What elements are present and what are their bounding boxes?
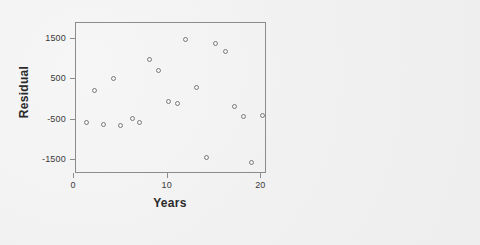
- y-tick-mark: [70, 38, 75, 39]
- data-point: [84, 120, 89, 125]
- data-point: [183, 37, 188, 42]
- x-tick-label: 0: [71, 180, 76, 190]
- data-point: [156, 68, 161, 73]
- y-tick-mark: [70, 78, 75, 79]
- screenshot-root: 1500500-500-1500 01020 Residual Years: [0, 0, 480, 245]
- x-tick-mark: [167, 173, 168, 178]
- x-tick-label: 20: [255, 180, 265, 190]
- data-point: [130, 116, 135, 121]
- x-tick-mark: [260, 173, 261, 178]
- data-point: [137, 120, 142, 125]
- data-point: [213, 41, 218, 46]
- data-point: [249, 160, 254, 165]
- y-tick-mark: [70, 159, 75, 160]
- y-tick-label: 1500: [45, 33, 66, 43]
- y-axis-tick-labels: 1500500-500-1500: [0, 0, 66, 245]
- data-point: [166, 99, 171, 104]
- data-point: [175, 101, 180, 106]
- data-point: [232, 104, 237, 109]
- data-point: [92, 88, 97, 93]
- y-tick-label: -1500: [42, 154, 66, 164]
- plot-area-frame: [75, 22, 266, 173]
- data-point: [260, 113, 265, 118]
- data-point: [241, 114, 246, 119]
- data-point: [194, 85, 199, 90]
- y-axis-title: Residual: [17, 66, 31, 118]
- data-point: [111, 76, 116, 81]
- x-axis-title: Years: [153, 196, 187, 210]
- data-point: [204, 155, 209, 160]
- data-point: [118, 123, 123, 128]
- data-point: [223, 49, 228, 54]
- y-tick-mark: [70, 119, 75, 120]
- y-tick-label: 500: [50, 73, 66, 83]
- residual-scatter-figure: 1500500-500-1500 01020 Residual Years: [0, 0, 480, 245]
- x-tick-label: 10: [162, 180, 172, 190]
- y-tick-label: -500: [47, 114, 66, 124]
- data-point: [147, 57, 152, 62]
- x-tick-mark: [73, 173, 74, 178]
- data-point: [101, 122, 106, 127]
